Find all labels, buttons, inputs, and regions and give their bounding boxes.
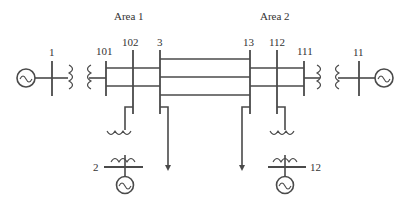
generator-11 xyxy=(375,69,393,87)
sine-wave-icon xyxy=(20,76,32,82)
bus112-tap xyxy=(277,107,285,130)
area-2-label: Area 2 xyxy=(260,10,290,22)
load-arrow-icon xyxy=(165,165,171,171)
generator-1 xyxy=(17,69,35,87)
generator-12 xyxy=(277,177,294,194)
generator-2 xyxy=(117,177,134,194)
transformer-winding-icon xyxy=(270,131,294,135)
transformer-winding-icon xyxy=(336,65,340,89)
bus-112-label: 112 xyxy=(269,36,285,48)
bus-102-label: 102 xyxy=(122,36,139,48)
sine-wave-icon xyxy=(279,183,291,189)
transformer-winding-icon xyxy=(69,65,73,89)
sine-wave-icon xyxy=(119,183,131,189)
bus3-load-feeder xyxy=(160,107,168,165)
bus-13-label: 13 xyxy=(243,36,255,48)
transformer-winding-icon xyxy=(317,65,321,89)
bus102-tap xyxy=(125,107,133,130)
sine-wave-icon xyxy=(378,76,390,82)
bus-2-label: 2 xyxy=(93,161,99,173)
bus-11-label: 11 xyxy=(353,46,364,58)
bus-101-label: 101 xyxy=(96,45,113,57)
bus-111-label: 111 xyxy=(297,45,313,57)
load-arrow-icon xyxy=(239,165,245,171)
transformer-winding-icon xyxy=(107,131,131,135)
bus13-load-feeder xyxy=(242,107,250,165)
transformer-1-101 xyxy=(69,65,91,89)
bus-12-label: 12 xyxy=(310,161,321,173)
transformer-111-11 xyxy=(317,65,339,89)
power-system-diagram: Area 1 Area 2 1 101 102 3 2 xyxy=(0,0,411,207)
transformer-102-2 xyxy=(107,131,135,162)
transformer-winding-icon xyxy=(88,65,92,89)
bus-3-label: 3 xyxy=(157,36,163,48)
bus-1-label: 1 xyxy=(49,46,55,58)
transformer-winding-icon xyxy=(111,159,135,163)
area-1-label: Area 1 xyxy=(114,10,144,22)
transformer-112-12 xyxy=(270,131,297,162)
